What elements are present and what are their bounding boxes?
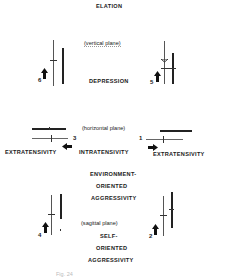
extratensivity-right-label: EXTRATENSIVITY <box>153 151 205 157</box>
figure-number: 2 <box>149 233 152 239</box>
end-mark <box>60 229 61 231</box>
reference-line <box>53 40 54 86</box>
extratensivity-left-label: EXTRATENSIVITY <box>5 149 57 155</box>
figure-number: 4 <box>38 232 41 238</box>
arrow-right-icon <box>148 144 158 151</box>
figure-number: 6 <box>38 77 41 83</box>
tick-mark <box>163 136 164 143</box>
figure-number: 3 <box>73 135 76 141</box>
arrow-up-icon <box>154 71 161 82</box>
self-oriented-line3: AGGRESSIVITY <box>88 257 134 263</box>
measurement-line <box>62 48 64 84</box>
self-oriented-line1: SELF- <box>100 233 118 239</box>
reference-line <box>146 139 183 140</box>
tick-mark <box>160 215 167 216</box>
reference-line <box>32 138 68 139</box>
self-oriented-line2: ORIENTED <box>96 245 127 251</box>
figure-caption: Fig. 24 <box>56 271 73 277</box>
arrow-up-icon <box>42 222 49 233</box>
tick-mark <box>169 209 174 210</box>
sagittal-plane-label: (sagittal plane) <box>81 220 118 226</box>
tick-mark <box>169 68 176 69</box>
figure-number: 5 <box>150 79 153 85</box>
tick-mark <box>51 135 52 142</box>
arrow-up-icon <box>152 224 159 235</box>
arrow-up-icon <box>41 68 48 79</box>
intratensivity-label: INTRATENSIVITY <box>79 149 129 155</box>
measurement-line <box>171 192 173 228</box>
reference-line <box>163 196 164 236</box>
tick-mark <box>161 68 169 69</box>
tick-mark <box>50 60 57 61</box>
measurement-line <box>60 194 62 219</box>
elation-label: ELATION <box>96 3 122 9</box>
horizontal-plane-label: (horizontal plane) <box>82 125 125 131</box>
measurement-line <box>160 130 192 132</box>
tick-mark <box>49 127 50 130</box>
tick-mark <box>48 214 55 215</box>
vertical-plane-label: (vertical plane) <box>84 40 121 47</box>
environment-oriented-line2: ORIENTED <box>96 183 127 189</box>
depression-label: DEPRESSION <box>89 78 129 84</box>
environment-oriented-line3: AGGRESSIVITY <box>91 195 137 201</box>
environment-oriented-line1: ENVIRONMENT- <box>90 171 137 177</box>
tick-chevron-icon <box>161 59 168 64</box>
arrow-left-icon <box>62 143 72 150</box>
figure-number: 1 <box>139 135 142 141</box>
reference-line <box>51 195 52 235</box>
